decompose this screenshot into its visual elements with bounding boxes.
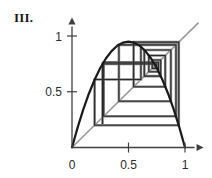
y-tick-label-0: 0.5 <box>45 85 62 99</box>
y-axis-tick-labels: 0.51 <box>45 30 62 100</box>
y-axis-arrow-icon <box>68 18 75 25</box>
y-tick-label-1: 1 <box>55 30 62 44</box>
panel-label: III. <box>14 10 33 26</box>
cobweb-plot: 00.51 0.51 <box>0 0 212 178</box>
x-axis-arrow-icon <box>197 144 204 151</box>
x-tick-label-0: 0 <box>69 158 76 172</box>
x-tick-label-2: 1 <box>182 158 189 172</box>
x-axis-tick-labels: 00.51 <box>69 158 189 172</box>
x-tick-label-1: 0.5 <box>120 158 137 172</box>
figure-panel: III. 00.51 0.51 <box>0 0 212 178</box>
